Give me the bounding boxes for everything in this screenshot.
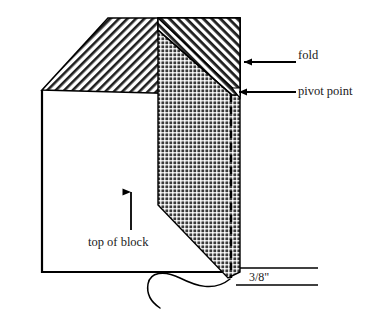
label-fold: fold	[298, 49, 318, 62]
label-top-of-block: top of block	[88, 236, 148, 249]
diagram-canvas: fold pivot point top of block 3/8"	[0, 0, 379, 331]
dimension-leader-curve	[148, 273, 230, 308]
label-pivot-point: pivot point	[298, 85, 353, 98]
label-dimension: 3/8"	[249, 271, 269, 283]
diagram-svg	[0, 0, 379, 331]
